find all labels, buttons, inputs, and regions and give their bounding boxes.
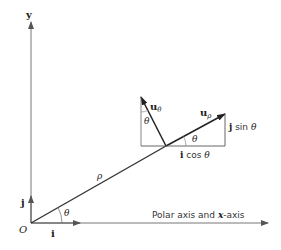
y-axis-label: y <box>25 9 33 20</box>
theta-arc-right <box>184 137 187 147</box>
origin-label: O <box>19 224 27 235</box>
polar-unit-vectors-diagram: y O i j θ ρ uθ uρ θ θ j sin θ i cos θ Po… <box>0 0 281 250</box>
polar-axis-label: Polar axis and x-axis <box>152 210 245 220</box>
i-vector-label: i <box>51 228 55 239</box>
j-sin-theta-label: j sin θ <box>228 122 257 132</box>
rho-radius-line <box>31 146 166 223</box>
rho-label: ρ <box>96 171 103 181</box>
theta-left-label: θ <box>144 116 150 126</box>
theta-right-label: θ <box>192 134 198 144</box>
i-cos-theta-label: i cos θ <box>180 150 210 160</box>
theta-arc-left <box>141 110 148 112</box>
theta-arc-origin <box>58 208 62 224</box>
u-rho-label: uρ <box>200 107 212 120</box>
u-theta-label: uθ <box>150 101 162 114</box>
theta-origin-label: θ <box>64 208 70 218</box>
j-vector-label: j <box>20 197 25 208</box>
